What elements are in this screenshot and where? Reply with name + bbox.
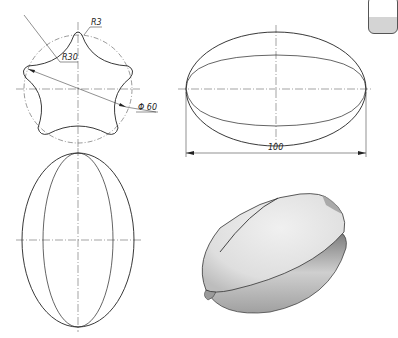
- top-view: R3 R30 Φ 60: [16, 15, 158, 148]
- diameter-arrow-end: [119, 103, 126, 107]
- r30-label: R30: [62, 53, 78, 62]
- r3-leader: [84, 27, 102, 35]
- diameter-arrow-start: [28, 69, 35, 73]
- front-view: 100: [178, 25, 372, 157]
- diameter-label: Φ 60: [138, 103, 157, 112]
- r3-label: R3: [91, 18, 102, 27]
- dim-arrow-left: [186, 151, 194, 155]
- side-view: [16, 148, 143, 332]
- dim-arrow-right: [358, 151, 366, 155]
- diameter-leader: [28, 69, 156, 112]
- length-label: 100: [268, 143, 283, 152]
- isometric-render: [202, 194, 346, 313]
